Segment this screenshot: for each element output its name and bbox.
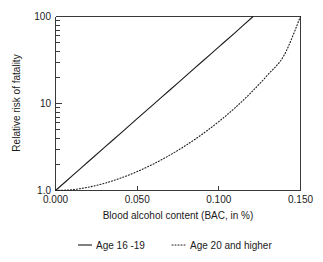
data-series-group bbox=[56, 17, 301, 191]
x-tick-label-2: 0.100 bbox=[206, 194, 231, 205]
y-tick-label-10: 10 bbox=[40, 98, 52, 109]
x-tick-label-3: 0.150 bbox=[288, 194, 313, 205]
legend-label-1: Age 20 and higher bbox=[190, 240, 272, 251]
y-axis-title: Relative risk of fatality bbox=[11, 54, 22, 151]
axes-border bbox=[56, 17, 301, 191]
chart-legend: Age 16 -19 Age 20 and higher bbox=[78, 240, 272, 251]
y-axis-ticks bbox=[56, 17, 62, 191]
legend-label-0: Age 16 -19 bbox=[96, 240, 145, 251]
plot-frame bbox=[56, 17, 301, 191]
x-axis-title: Blood alcohol content (BAC, in %) bbox=[103, 210, 254, 221]
series-line-age-16-19 bbox=[56, 17, 254, 191]
y-tick-label-100: 100 bbox=[34, 11, 51, 22]
x-tick-label-1: 0.050 bbox=[125, 194, 150, 205]
x-tick-label-0: 0.000 bbox=[43, 194, 68, 205]
series-line-age-20-and-higher bbox=[56, 17, 301, 191]
fatality-risk-chart-figure: 100 10 1.0 0.000 0.050 0.100 0.150 Blood… bbox=[0, 0, 323, 262]
chart-canvas: 100 10 1.0 0.000 0.050 0.100 0.150 Blood… bbox=[0, 0, 323, 262]
